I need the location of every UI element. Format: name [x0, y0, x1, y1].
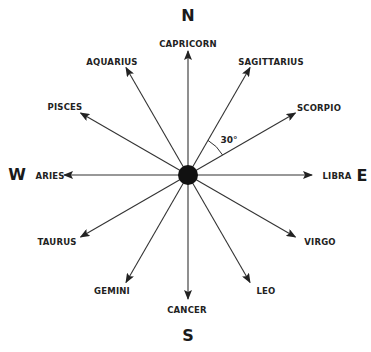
arrow-sagittarius — [188, 68, 250, 175]
arrow-leo — [188, 175, 250, 282]
label-cancer: CANCER — [167, 306, 207, 315]
arrow-aquarius — [126, 68, 188, 175]
arrow-pisces — [81, 113, 188, 175]
label-pisces: PISCES — [48, 103, 83, 112]
label-capricorn: CAPRICORN — [159, 40, 217, 49]
arrow-gemini — [126, 175, 188, 282]
label-aries: ARIES — [35, 172, 64, 181]
label-leo: LEO — [256, 287, 275, 296]
center-dot — [178, 165, 198, 185]
zodiac-compass-diagram: N E S W CAPRICORN SAGITTARIUS SCORPIO LI… — [0, 0, 371, 352]
angle-label: 30° — [220, 136, 237, 145]
cardinal-north: N — [181, 8, 194, 24]
arrow-taurus — [81, 175, 188, 237]
cardinal-east: E — [357, 168, 368, 184]
label-sagittarius: SAGITTARIUS — [238, 58, 303, 67]
cardinal-west: W — [8, 167, 26, 183]
label-scorpio: SCORPIO — [297, 104, 341, 113]
label-virgo: VIRGO — [304, 238, 336, 247]
arrow-scorpio — [188, 113, 295, 175]
label-taurus: TAURUS — [37, 238, 76, 247]
label-libra: LIBRA — [322, 172, 351, 181]
label-aquarius: AQUARIUS — [86, 58, 137, 67]
arrow-virgo — [188, 175, 295, 237]
label-gemini: GEMINI — [94, 287, 130, 296]
cardinal-south: S — [182, 328, 194, 344]
